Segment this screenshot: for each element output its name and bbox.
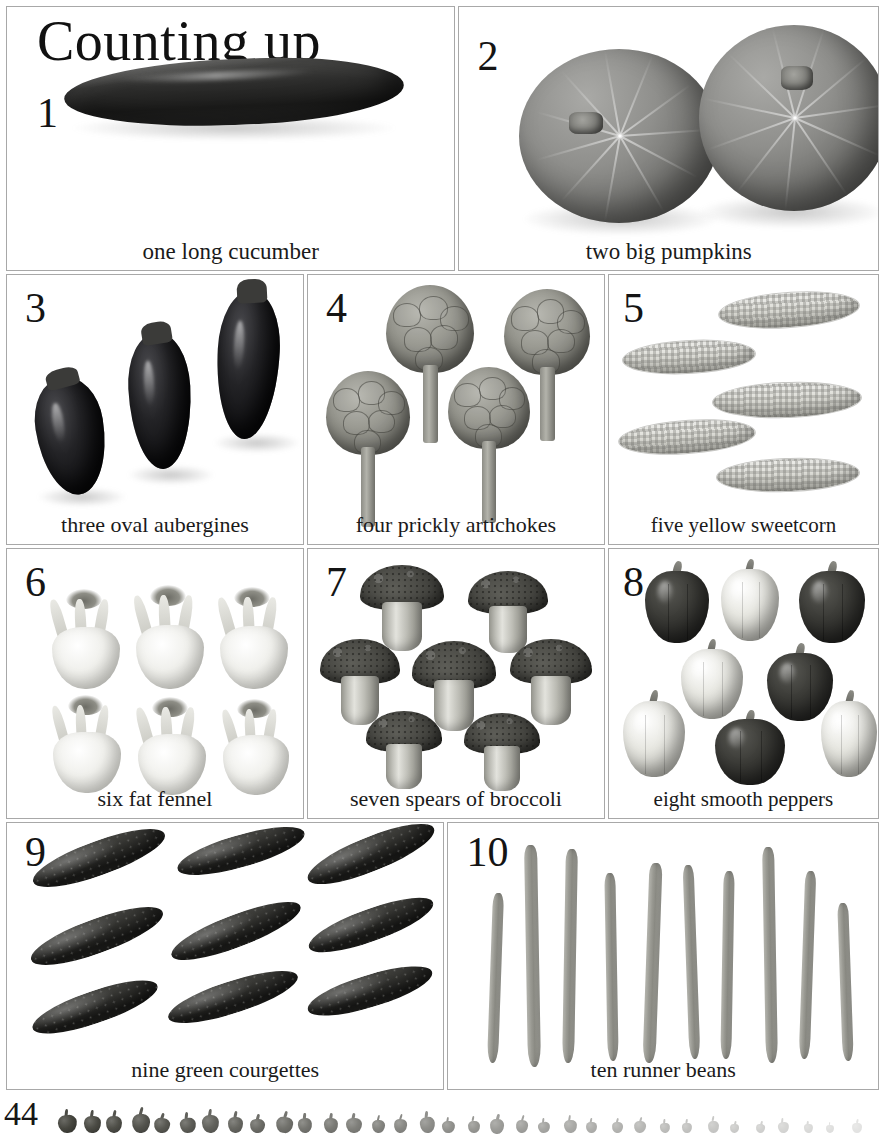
pepper-ornament: [563, 1120, 577, 1134]
courgette-9: [303, 957, 437, 1026]
broccoli-5: [510, 639, 592, 723]
pepper-ornament: [371, 1119, 385, 1133]
panel-row-1: Counting up 1 one long cucumber 2: [6, 6, 882, 274]
pepper-ornament: [826, 1125, 834, 1133]
pepper-ornament: [57, 1114, 78, 1134]
bean-1: [488, 893, 505, 1063]
courgette-2: [173, 822, 309, 885]
counting-page: Counting up 1 one long cucumber 2: [0, 0, 888, 1135]
sweetcorn-1: [718, 288, 860, 332]
panel-10-runner-beans[interactable]: 10 ten runner beans: [447, 822, 879, 1090]
pepper-ornament: [537, 1121, 550, 1133]
pepper-ornament: [777, 1121, 789, 1133]
panel-2-pumpkins[interactable]: 2: [458, 6, 879, 271]
pepper-6: [623, 701, 685, 777]
pepper-8: [821, 701, 877, 777]
pepper-ornament: [682, 1123, 692, 1134]
photo-peppers: [609, 549, 878, 784]
page-footer: 44: [0, 1087, 888, 1135]
pumpkin-stem: [781, 66, 813, 90]
fennel-3: [213, 587, 295, 689]
panel-caption: seven spears of broccoli: [308, 786, 604, 812]
panel-9-courgettes[interactable]: 9 nine green courgettes: [6, 822, 444, 1090]
pepper-ornament: [755, 1124, 765, 1134]
pepper-ornament: [851, 1123, 862, 1133]
pepper-ornament: [442, 1121, 455, 1134]
bean-6: [683, 865, 701, 1059]
sweetcorn-2: [622, 338, 755, 377]
aubergine-2: [125, 331, 194, 470]
courgette-1: [27, 822, 170, 898]
pepper-3: [799, 571, 865, 643]
pepper-4: [681, 649, 743, 719]
panel-caption: nine green courgettes: [7, 1057, 443, 1083]
pepper-ornament: [730, 1124, 740, 1133]
photo-artichokes: [308, 275, 604, 510]
pepper-2: [721, 569, 779, 641]
panel-7-broccoli[interactable]: 7: [307, 548, 605, 819]
panel-8-peppers[interactable]: 8: [608, 548, 879, 819]
panel-row-2: 3 three oval aubergines: [6, 274, 882, 548]
pepper-ornament: [228, 1117, 243, 1133]
bean-7: [721, 871, 735, 1059]
pepper-ornament: [83, 1116, 101, 1133]
bean-2: [525, 845, 542, 1067]
panel-caption: four prickly artichokes: [308, 512, 604, 538]
pepper-ornament: [106, 1116, 122, 1133]
pepper-ornament: [633, 1121, 647, 1134]
courgette-4: [25, 896, 168, 976]
pumpkin-2: [699, 25, 879, 211]
pepper-ornament: [468, 1121, 480, 1133]
panel-6-fennel[interactable]: 6: [6, 548, 304, 819]
pepper-1: [645, 571, 709, 643]
pepper-ornament: [179, 1117, 196, 1134]
photo-courgettes: [7, 823, 443, 1055]
pepper-ornament: [708, 1121, 720, 1133]
artichoke-1: [326, 371, 410, 455]
courgette-3: [302, 822, 441, 895]
pepper-ornament: [250, 1119, 266, 1134]
bean-9: [799, 871, 817, 1059]
sweetcorn-5: [716, 457, 859, 494]
aubergine-1: [28, 372, 114, 499]
pepper-ornament: [659, 1122, 670, 1133]
photo-broccoli: [308, 549, 604, 784]
broccoli-6: [366, 711, 442, 787]
sweetcorn-3: [712, 380, 861, 419]
pepper-ornament: [515, 1120, 528, 1134]
bean-8: [763, 847, 779, 1063]
pepper-ornament: [202, 1115, 220, 1134]
artichoke-2: [386, 285, 474, 373]
photo-pumpkins: [459, 7, 878, 236]
photo-sweetcorn: [609, 275, 878, 510]
pumpkin-stem: [569, 112, 603, 135]
panel-5-sweetcorn[interactable]: 5 five yellow sweetcorn: [608, 274, 879, 545]
panel-3-aubergines[interactable]: 3 three oval aubergines: [6, 274, 304, 545]
pepper-ornament: [131, 1113, 150, 1133]
bean-4: [605, 873, 619, 1061]
panel-caption: six fat fennel: [7, 786, 303, 812]
pepper-ornament: [393, 1119, 408, 1134]
aubergine-3: [213, 289, 283, 440]
panel-1-cucumber[interactable]: Counting up 1 one long cucumber: [6, 6, 455, 271]
panel-row-3: 6: [6, 548, 882, 822]
fennel-2: [129, 585, 211, 689]
panel-4-artichokes[interactable]: 4: [307, 274, 605, 545]
pepper-ornament: [323, 1118, 338, 1134]
fennel-6: [217, 699, 295, 795]
broccoli-1: [360, 565, 444, 649]
photo-fennel: [7, 549, 303, 784]
pepper-ornament: [586, 1122, 597, 1133]
courgette-6: [304, 887, 439, 962]
pepper-ornament: [346, 1118, 362, 1133]
pepper-ornament: [490, 1118, 505, 1133]
bean-10: [838, 903, 855, 1061]
panel-caption: one long cucumber: [7, 239, 454, 265]
panel-caption: five yellow sweetcorn: [609, 513, 878, 538]
pepper-ornament: [297, 1118, 313, 1134]
panel-caption: three oval aubergines: [7, 512, 303, 538]
pepper-ornament: [275, 1116, 293, 1134]
artichoke-3: [448, 367, 530, 449]
bean-5: [643, 863, 663, 1063]
panel-row-4: 9 nine green courgettes 10: [6, 822, 882, 1093]
